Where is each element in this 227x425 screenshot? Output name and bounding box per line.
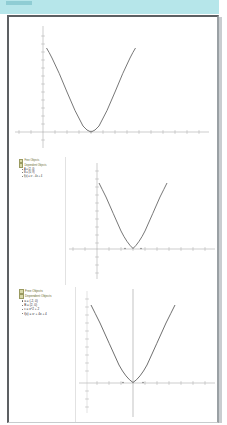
- bullet-icon: [22, 313, 24, 315]
- page-root: Free Objects Dependent Objects A = (2, 0…: [0, 0, 227, 425]
- document-shadow: [219, 17, 222, 423]
- bullet-icon: [22, 300, 24, 302]
- titlebar-right-gap: [219, 0, 227, 14]
- bullet-icon: [22, 172, 23, 173]
- algebra-item-label: f(x) = x² - 4x + 4: [24, 175, 42, 178]
- bullet-icon: [22, 169, 23, 170]
- bullet-icon: [22, 305, 24, 307]
- graph-view-2[interactable]: [69, 157, 217, 283]
- titlebar-tab[interactable]: [6, 1, 32, 5]
- algebra-group-label: Dependent Objects: [25, 294, 52, 298]
- algebra-group-label: Free Objects: [25, 289, 43, 293]
- bullet-icon: [22, 309, 24, 311]
- graph-panel-3[interactable]: Free Objects Dependent Objects a = (-2, …: [9, 287, 217, 422]
- graph-panel-1[interactable]: [9, 22, 217, 152]
- graph-view-3[interactable]: [79, 287, 217, 420]
- point-a-marker[interactable]: [124, 248, 125, 249]
- algebra-group-label: Free Objects: [24, 159, 39, 162]
- algebra-group-label: Dependent Objects: [24, 164, 46, 167]
- graph-svg-1: [13, 24, 213, 150]
- window-titlebar: [0, 0, 219, 14]
- bullet-icon: [22, 176, 23, 177]
- point-a-marker[interactable]: [122, 382, 123, 383]
- algebra-view-2[interactable]: Free Objects Dependent Objects A = (2, 0…: [19, 159, 63, 178]
- point-b-marker[interactable]: [140, 248, 141, 249]
- algebra-graph-divider: [65, 157, 66, 285]
- graph-panel-2[interactable]: Free Objects Dependent Objects A = (2, 0…: [9, 157, 217, 285]
- parabola-curve-2: [99, 183, 167, 249]
- document-frame: Free Objects Dependent Objects A = (2, 0…: [7, 15, 219, 423]
- graph-view-1[interactable]: [13, 24, 213, 150]
- graph-svg-2: [69, 157, 217, 283]
- folder-icon: [19, 163, 23, 167]
- algebra-item-label: f(x) = x² + 4x + 4: [24, 312, 47, 316]
- algebra-graph-divider: [75, 287, 76, 422]
- algebra-item[interactable]: f(x) = x² - 4x + 4: [19, 175, 63, 178]
- point-b-marker[interactable]: [142, 382, 143, 383]
- algebra-item[interactable]: f(x) = x² + 4x + 4: [19, 312, 71, 316]
- algebra-view-3[interactable]: Free Objects Dependent Objects a = (-2, …: [19, 289, 71, 316]
- graph-svg-3: [79, 287, 217, 420]
- parabola-curve-1: [47, 48, 136, 132]
